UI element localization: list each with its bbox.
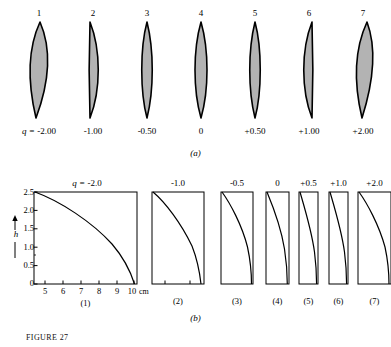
lens-shape-1	[12, 20, 66, 120]
lens-q-label-2: -1.00	[66, 126, 120, 137]
lens-number: 7	[336, 8, 390, 19]
panel-a-lens-shapes: 1 q = -2.00 2 -1.00 3	[0, 0, 391, 170]
lens-group-5: 5 +0.50	[228, 8, 282, 137]
lens-number: 1	[12, 8, 66, 19]
q-symbol: q =	[22, 126, 35, 136]
lens-group-7: 7 +2.00	[336, 8, 390, 137]
y-tick-2-5: 2.5	[8, 187, 34, 197]
lens-shape-4	[174, 20, 228, 120]
y-tick-0: 0	[8, 278, 34, 288]
lens-shape-6	[282, 20, 336, 120]
x-tick-6: 6	[56, 286, 70, 296]
subplot-4	[266, 192, 289, 284]
x-tick-8: 8	[92, 286, 106, 296]
subplot-q-label-7: +2.0	[358, 178, 391, 188]
subplot-index-3: (3)	[221, 296, 253, 306]
sub-caption-a: (a)	[0, 148, 391, 158]
subplot-index-4: (4)	[265, 296, 290, 306]
lens-q-label-5: +0.50	[228, 126, 282, 137]
q-symbol: q =	[72, 178, 85, 188]
subplot-1	[34, 192, 137, 284]
lens-q-label-3: -0.50	[120, 126, 174, 137]
y-tick-1-0: 1.0	[8, 242, 34, 252]
q-value: -2.0	[87, 178, 101, 188]
subplot-index-5: (5)	[296, 296, 321, 306]
lens-number: 2	[66, 8, 120, 19]
lens-number: 3	[120, 8, 174, 19]
lens-group-1: 1 q = -2.00	[12, 8, 66, 137]
x-tick-10: 10	[124, 286, 140, 296]
sub-caption-b: (b)	[0, 313, 391, 323]
lens-number: 4	[174, 8, 228, 19]
y-axis-label-h: h	[10, 229, 22, 239]
figure-caption: FIGURE 27	[26, 333, 69, 347]
subplot-2	[152, 192, 204, 284]
lens-shape-5	[228, 20, 282, 120]
lens-q-label-4: 0	[174, 126, 228, 137]
lens-group-6: 6 +1.00	[282, 8, 336, 137]
subplot-q-label-6: +1.0	[326, 178, 351, 188]
x-tick-7: 7	[74, 286, 88, 296]
subplot-q-label-3: -0.5	[221, 178, 253, 188]
subplot-q-label-1: q = -2.0	[52, 178, 122, 188]
subplot-7	[358, 192, 391, 284]
lens-shape-7	[336, 20, 390, 120]
subplot-5	[299, 192, 318, 284]
subplot-3	[221, 192, 253, 284]
subplot-index-2: (2)	[152, 296, 204, 306]
subplot-q-label-2: -1.0	[152, 178, 204, 188]
lens-q-label-1: q = -2.00	[12, 126, 66, 137]
panel-b-aberration-graphs: 2.5 2.0 1.5 1.0 0.5 0 h 5 6 7 8 9 10 cm …	[0, 170, 391, 325]
figure-container: 1 q = -2.00 2 -1.00 3	[0, 0, 391, 347]
lens-shape-3	[120, 20, 174, 120]
lens-q-label-6: +1.00	[282, 126, 336, 137]
subplot-q-label-4: 0	[266, 178, 289, 188]
lens-shape-2	[66, 20, 120, 120]
lens-number: 5	[228, 8, 282, 19]
x-axis-unit: cm	[139, 287, 149, 296]
lens-number: 6	[282, 8, 336, 19]
y-tick-0-5: 0.5	[8, 260, 34, 270]
y-tick-2-0: 2.0	[8, 205, 34, 215]
subplot-index-6: (6)	[326, 296, 351, 306]
subplot-6	[329, 192, 348, 284]
subplot-index-7: (7)	[358, 296, 391, 306]
lens-group-4: 4 0	[174, 8, 228, 137]
q-value: -2.00	[37, 126, 56, 136]
lens-group-3: 3 -0.50	[120, 8, 174, 137]
subplot-q-label-5: +0.5	[296, 178, 321, 188]
x-tick-5: 5	[38, 286, 52, 296]
lens-group-2: 2 -1.00	[66, 8, 120, 137]
lens-q-label-7: +2.00	[336, 126, 390, 137]
x-tick-9: 9	[110, 286, 124, 296]
subplot-index-1: (1)	[58, 298, 113, 308]
